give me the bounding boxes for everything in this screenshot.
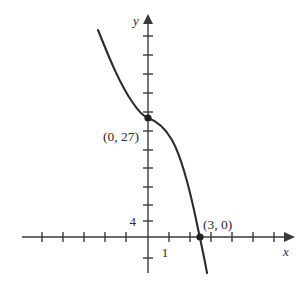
y-axis-label: y xyxy=(131,13,139,28)
x-axis-label: x xyxy=(282,244,289,259)
x-intercept-label: (3, 0) xyxy=(203,217,232,232)
point-marker-y-intercept xyxy=(144,114,151,121)
y-intercept-label: (0, 27) xyxy=(103,129,139,144)
cubic-function-graph: 1 x 4 y (0, 27) (3, 0) xyxy=(0,0,306,284)
y-tick-label-4: 4 xyxy=(130,214,137,229)
plot-background xyxy=(0,0,306,284)
x-tick-label-1: 1 xyxy=(162,245,169,260)
point-marker-x-intercept xyxy=(196,233,203,240)
